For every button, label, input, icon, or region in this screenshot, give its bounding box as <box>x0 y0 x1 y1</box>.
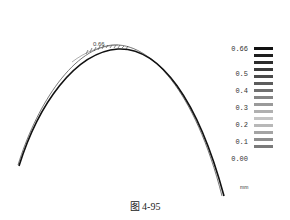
figure-caption: 图 4-95 <box>0 198 290 213</box>
legend-swatch <box>254 138 273 141</box>
legend-swatch <box>254 75 273 78</box>
legend-label: 0.00 <box>228 155 248 163</box>
legend-swatch <box>254 61 273 64</box>
legend-swatch <box>254 145 273 148</box>
legend-label: 0.3 <box>228 104 248 112</box>
legend-label: 0.1 <box>228 138 248 146</box>
legend-label: 0.66 <box>228 45 248 53</box>
legend-swatch <box>254 110 273 113</box>
legend-swatch <box>254 103 273 106</box>
original-curve <box>19 49 224 196</box>
legend-swatch <box>254 124 273 127</box>
peak-value-label: 0.66 <box>93 41 105 47</box>
upper-envelope-curve <box>72 45 118 62</box>
deformed-curve <box>18 45 222 196</box>
legend-label: 0.5 <box>228 70 248 78</box>
color-legend: 0.66 0.5 0.4 0.3 0.2 0.1 0.00 <box>228 45 288 185</box>
legend-label: 0.4 <box>228 87 248 95</box>
legend-swatch <box>254 47 273 50</box>
legend-swatch <box>254 131 273 134</box>
legend-swatch <box>254 117 273 120</box>
legend-label: 0.2 <box>228 121 248 129</box>
deformation-figure: 0.66 0.66 0.5 0.4 0.3 0.2 0.1 0.00 mm 图 … <box>0 0 290 220</box>
legend-swatch <box>254 89 273 92</box>
legend-swatch <box>254 68 273 71</box>
legend-swatch <box>254 82 273 85</box>
unit-label: mm <box>240 184 248 190</box>
legend-swatch <box>254 54 273 57</box>
legend-swatch <box>254 96 273 99</box>
